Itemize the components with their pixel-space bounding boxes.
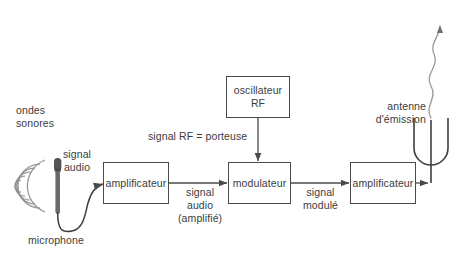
block-label-amplificateur-1: amplificateur xyxy=(106,177,167,190)
label-signal-rf-porteuse: signal RF = porteuse xyxy=(148,130,247,143)
block-label-oscillateur-rf: oscillateur RF xyxy=(234,84,282,110)
label-microphone: microphone xyxy=(28,234,84,247)
radio-wave-icon xyxy=(429,26,440,118)
block-amplificateur-1: amplificateur xyxy=(103,162,169,204)
label-signal-audio-amplifie: signal audio (amplifié) xyxy=(178,186,222,225)
label-ondes-sonores: ondes sonores xyxy=(16,104,54,130)
label-antenne-emission: antenne d'émission xyxy=(366,100,426,126)
block-modulateur: modulateur xyxy=(228,162,291,204)
block-oscillateur-rf: oscillateur RF xyxy=(226,76,290,118)
block-amplificateur-2: amplificateur xyxy=(350,162,416,204)
antenna-fork-icon xyxy=(414,118,448,183)
block-label-amplificateur-2: amplificateur xyxy=(353,177,414,190)
sound-waves-icon xyxy=(15,160,45,212)
microphone-cable xyxy=(58,184,103,232)
block-label-modulateur: modulateur xyxy=(233,177,287,190)
microphone-icon xyxy=(54,158,61,214)
radio-transmission-diagram: amplificateur oscillateur RF modulateur … xyxy=(0,0,476,261)
label-signal-module: signal modulé xyxy=(303,186,338,212)
label-signal-audio: signal audio xyxy=(63,148,91,174)
